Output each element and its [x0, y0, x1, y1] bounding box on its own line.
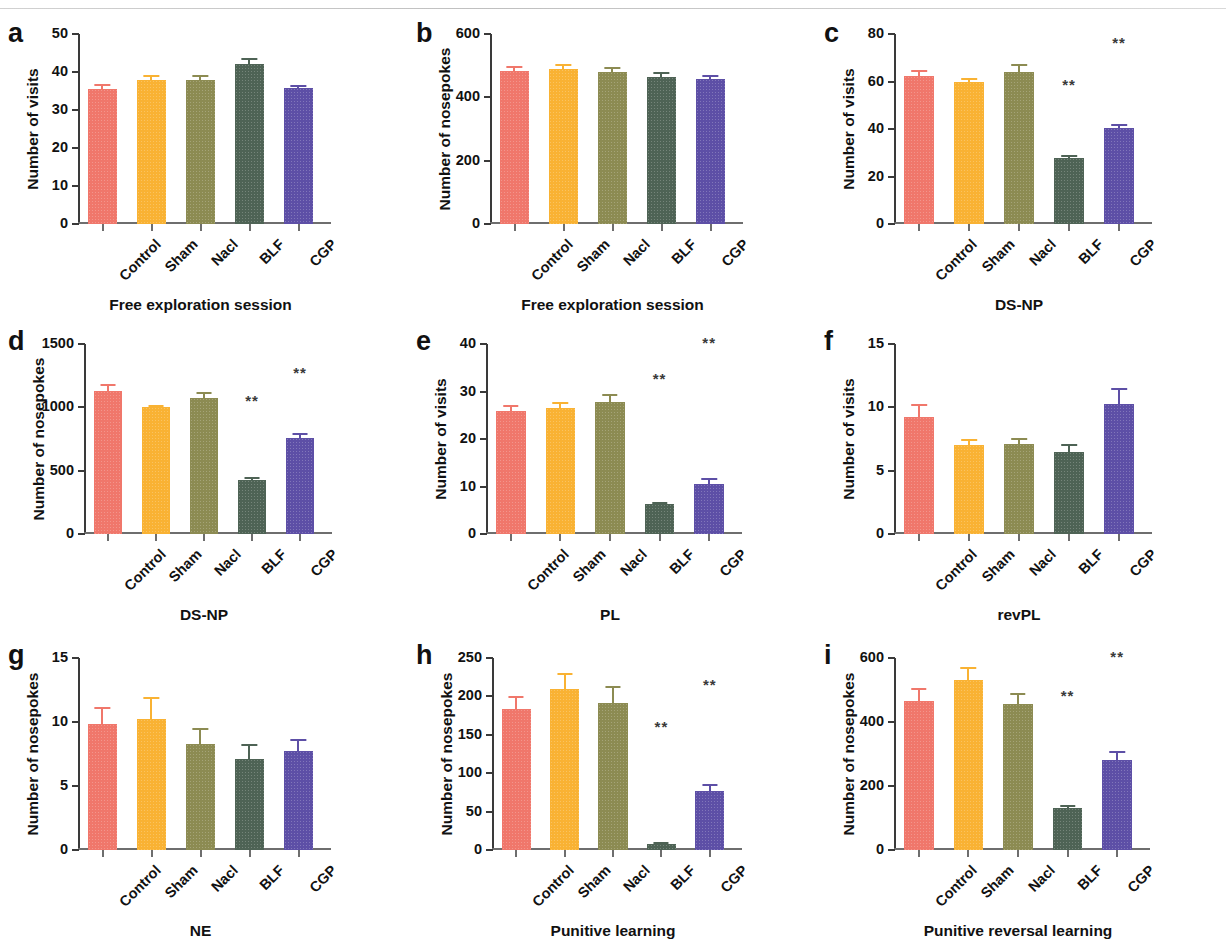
- error-bar-cap: [1109, 751, 1124, 753]
- error-bar-cap: [605, 686, 620, 688]
- y-tick-label: 40: [460, 335, 476, 351]
- bar-nacl: [190, 398, 219, 534]
- y-axis-line: [84, 344, 86, 534]
- x-axis-label-cgp: CGP: [306, 236, 340, 270]
- plot-area: 050100150200250****: [492, 658, 734, 850]
- error-bar-control: [500, 66, 529, 71]
- error-bar-cap: [291, 739, 306, 741]
- x-tick: [249, 224, 251, 231]
- y-tick-label: 600: [860, 649, 884, 665]
- x-axis-label-blf: BLF: [1075, 236, 1106, 267]
- x-tick: [708, 534, 710, 541]
- error-bar-cgp: [696, 75, 725, 79]
- x-tick: [709, 850, 711, 857]
- y-tick-label: 0: [876, 841, 884, 857]
- error-bar-cap: [101, 384, 116, 386]
- bar-blf: [645, 504, 675, 534]
- bar-cgp: [696, 79, 725, 224]
- bar-cgp: [284, 751, 313, 850]
- error-bar-control: [502, 696, 531, 708]
- error-bar-cap: [602, 394, 617, 396]
- x-tick: [102, 224, 104, 231]
- y-axis-title: Number of visits: [432, 344, 450, 534]
- panel-letter-f: f: [824, 328, 833, 355]
- x-tick: [918, 850, 920, 857]
- error-bar-cap: [1010, 693, 1025, 695]
- x-tick: [710, 224, 712, 231]
- x-axis-label-control: Control: [121, 546, 169, 594]
- x-axis-label-nacl: Nacl: [1026, 236, 1059, 269]
- y-tick-mark: [888, 343, 895, 345]
- x-axis-label-cgp: CGP: [717, 862, 751, 896]
- error-bar-blf: [1053, 805, 1083, 808]
- x-tick: [1067, 850, 1069, 857]
- bar-cgp: [1104, 404, 1134, 534]
- error-bar-cap: [1111, 124, 1127, 126]
- bar-control: [502, 709, 531, 850]
- y-tick-mark: [888, 849, 895, 851]
- y-axis-title: Number of visits: [840, 344, 858, 534]
- x-tick: [1068, 534, 1070, 541]
- error-bar-stem: [564, 673, 566, 688]
- y-tick-mark: [888, 721, 895, 723]
- x-tick: [659, 534, 661, 541]
- y-tick-label: 400: [456, 88, 480, 104]
- x-tick: [298, 224, 300, 231]
- y-tick-mark: [72, 185, 79, 187]
- plot-area: 050010001500****: [84, 344, 324, 534]
- plot-area: 051015: [894, 344, 1144, 534]
- y-tick-mark: [72, 33, 79, 35]
- error-bar-sham: [954, 667, 984, 680]
- bar-sham: [142, 407, 171, 534]
- y-tick-label: 5: [60, 777, 68, 793]
- error-bar-nacl: [1003, 693, 1033, 704]
- y-tick-mark: [484, 33, 491, 35]
- chart-panel-i: iNumber of nosepokesControlShamNaclBLFCG…: [816, 620, 1226, 935]
- error-bar-sham: [142, 405, 171, 407]
- x-axis-label-cgp: CGP: [718, 236, 752, 270]
- y-tick-label: 0: [474, 841, 482, 857]
- y-tick-mark: [72, 147, 79, 149]
- significance-marker-cgp: **: [703, 676, 717, 693]
- y-tick-label: 50: [52, 25, 68, 41]
- error-bar-cgp: [1104, 124, 1134, 128]
- y-tick-label: 40: [868, 120, 884, 136]
- x-axis-label-blf: BLF: [666, 546, 697, 577]
- y-tick-mark: [72, 849, 79, 851]
- error-bar-nacl: [186, 75, 215, 80]
- x-axis-label-sham: Sham: [570, 546, 609, 585]
- error-bar-cap: [702, 784, 717, 786]
- error-bar-cap: [197, 392, 212, 394]
- error-bar-cap: [509, 696, 524, 698]
- error-bar-control: [904, 688, 934, 701]
- error-bar-stem: [199, 728, 201, 745]
- bar-blf: [235, 64, 264, 224]
- x-tick: [151, 224, 153, 231]
- y-tick-label: 80: [868, 25, 884, 41]
- bar-cgp: [1102, 760, 1132, 850]
- error-bar-cgp: [1102, 751, 1132, 760]
- chart-panel-g: gNumber of nosepokesControlShamNaclBLFCG…: [0, 620, 408, 935]
- y-tick-mark: [486, 695, 493, 697]
- x-axis-label-sham: Sham: [573, 236, 612, 275]
- x-tick: [612, 850, 614, 857]
- y-axis-title: Number of nosepokes: [438, 658, 456, 850]
- y-tick-mark: [78, 533, 85, 535]
- y-axis-line: [492, 658, 494, 850]
- error-bar-cap: [1061, 155, 1077, 157]
- error-bar-stem: [101, 707, 103, 724]
- bar-sham: [137, 80, 166, 224]
- y-tick-mark: [484, 160, 491, 162]
- error-bar-cap: [1061, 444, 1077, 446]
- error-bar-cap: [911, 404, 927, 406]
- y-tick-mark: [72, 223, 79, 225]
- y-tick-label: 30: [52, 101, 68, 117]
- bar-sham: [549, 69, 578, 224]
- y-tick-label: 15: [52, 649, 68, 665]
- error-bar-cap: [293, 433, 308, 435]
- y-tick-mark: [888, 657, 895, 659]
- error-bar-cap: [1011, 438, 1027, 440]
- error-bar-cgp: [286, 433, 315, 438]
- y-tick-label: 60: [868, 73, 884, 89]
